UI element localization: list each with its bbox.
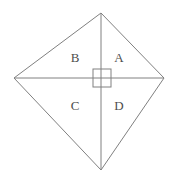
region-label-d: D	[111, 99, 127, 112]
region-label-c: C	[67, 99, 83, 112]
region-label-b: B	[67, 51, 83, 64]
kite-outline	[14, 13, 164, 170]
kite-diagram-svg	[0, 0, 172, 176]
geometry-figure: B A C D	[0, 0, 172, 176]
region-label-a: A	[111, 51, 127, 64]
